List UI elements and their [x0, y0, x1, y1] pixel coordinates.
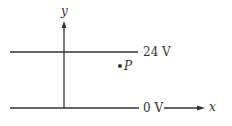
- point-p-dot: [118, 64, 122, 68]
- top-line-label: 24 V: [143, 46, 171, 58]
- point-p-label: P: [124, 60, 132, 72]
- x-axis-arrowhead-icon: [197, 106, 205, 111]
- diagram-canvas: [0, 0, 232, 126]
- bottom-line-label: 0 V: [143, 102, 163, 114]
- x-axis-label: x: [209, 101, 216, 113]
- y-axis-label: y: [61, 5, 68, 17]
- y-axis-arrowhead-icon: [62, 21, 67, 28]
